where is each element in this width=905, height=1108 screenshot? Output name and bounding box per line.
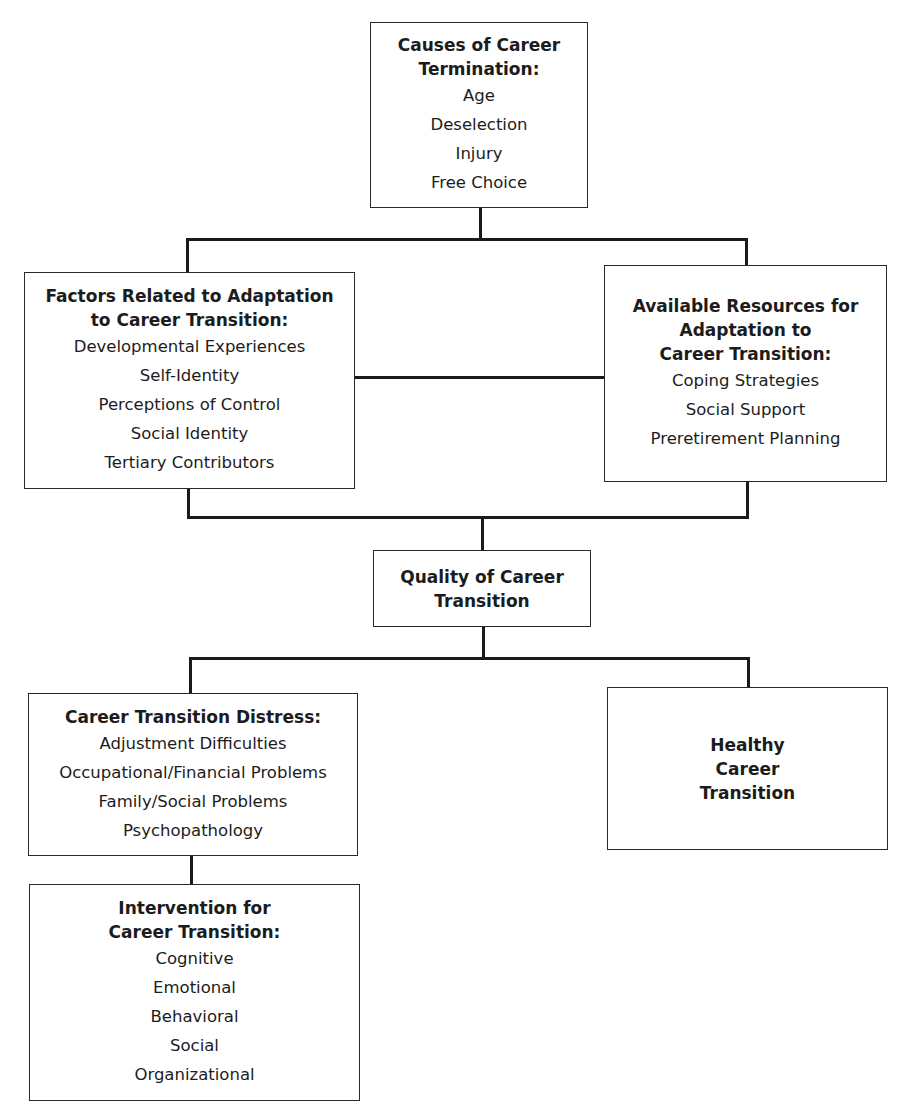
distress-item: Occupational/Financial Problems [59,758,327,787]
causes-title-line-1: Causes of Career [398,33,561,57]
intervention-title-line-2: Career Transition: [109,920,281,944]
intervention-item: Cognitive [155,944,233,973]
distress-box: Career Transition Distress: Adjustment D… [28,693,358,856]
causes-item: Age [463,81,495,110]
quality-title-line-2: Transition [434,589,529,613]
factors-title-line-1: Factors Related to Adaptation [45,284,333,308]
connector-to-resources [745,238,748,266]
resources-title-line-2: Adaptation to [679,318,811,342]
resources-item: Preretirement Planning [651,424,841,453]
quality-box: Quality of Career Transition [373,550,591,627]
connector-to-quality [481,516,484,551]
intervention-box: Intervention for Career Transition: Cogn… [29,884,360,1101]
factors-item: Self-Identity [140,361,239,390]
connector-bottom-horizontal [189,657,749,660]
connector-to-factors [186,238,189,273]
connector-resources-down [746,480,749,519]
distress-item: Adjustment Difficulties [99,729,286,758]
factors-title-line-2: to Career Transition: [91,308,289,332]
causes-title-line-2: Termination: [419,57,540,81]
resources-item: Social Support [686,395,805,424]
factors-box: Factors Related to Adaptation to Career … [24,272,355,489]
connector-mid-horizontal [187,516,749,519]
factors-item: Perceptions of Control [99,390,281,419]
connector-causes-down [479,206,482,240]
resources-title-line-3: Career Transition: [660,342,832,366]
resources-item: Coping Strategies [672,366,819,395]
healthy-box: Healthy Career Transition [607,687,888,850]
quality-title-line-1: Quality of Career [400,565,564,589]
distress-title: Career Transition Distress: [65,705,321,729]
intervention-item: Social [170,1031,219,1060]
intervention-item: Emotional [153,973,236,1002]
healthy-title-line-3: Transition [700,781,795,805]
factors-item: Developmental Experiences [74,332,306,361]
causes-item: Free Choice [431,168,527,197]
resources-box: Available Resources for Adaptation to Ca… [604,265,887,482]
connector-distress-intervention [190,854,193,885]
factors-item: Social Identity [131,419,248,448]
causes-item: Injury [456,139,503,168]
factors-item: Tertiary Contributors [105,448,275,477]
healthy-title-line-2: Career [716,757,780,781]
connector-quality-down [482,625,485,659]
distress-item: Psychopathology [123,816,263,845]
connector-top-horizontal [186,238,748,241]
intervention-item: Behavioral [151,1002,239,1031]
intervention-item: Organizational [134,1060,254,1089]
connector-factors-resources [353,376,605,379]
connector-factors-down [187,487,190,519]
causes-item: Deselection [430,110,527,139]
connector-to-distress [189,657,192,695]
causes-box: Causes of Career Termination: Age Desele… [370,22,588,208]
connector-to-healthy [747,657,750,688]
distress-item: Family/Social Problems [99,787,288,816]
resources-title-line-1: Available Resources for [633,294,859,318]
intervention-title-line-1: Intervention for [118,896,270,920]
healthy-title-line-1: Healthy [710,733,784,757]
